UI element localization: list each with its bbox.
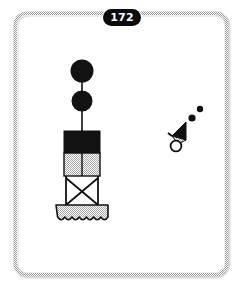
page-number-badge: 172 bbox=[103, 9, 141, 26]
buoy-float-base bbox=[56, 205, 108, 220]
page-number-text: 172 bbox=[110, 12, 134, 23]
lower-dot-icon bbox=[188, 114, 195, 121]
figure-area bbox=[14, 18, 228, 276]
lower-black-ball-icon bbox=[72, 91, 93, 112]
page-root: 172 bbox=[0, 0, 242, 291]
buoy-illustration bbox=[52, 58, 138, 228]
buoy-upper-band bbox=[64, 131, 100, 153]
upper-dot-icon bbox=[197, 106, 203, 112]
pennant-staff bbox=[168, 133, 172, 136]
mooring-ring-icon bbox=[171, 141, 182, 152]
upper-black-ball-icon bbox=[71, 60, 94, 83]
pennant-marker-illustration bbox=[162, 102, 210, 158]
